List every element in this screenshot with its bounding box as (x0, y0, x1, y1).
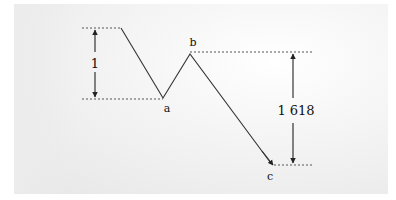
extension-measure: 1 618 (277, 54, 314, 163)
point-c-label: c (267, 170, 273, 183)
reference-lines (82, 28, 314, 165)
point-a-label: a (164, 102, 171, 115)
abc-fibonacci-diagram: 1 1 618 a b c (0, 0, 396, 200)
first-leg-measure: 1 (91, 30, 99, 97)
c-leg-arrow (262, 151, 273, 165)
extension-label: 1 618 (277, 103, 314, 118)
point-b-label: b (189, 36, 196, 49)
first-leg-label: 1 (91, 56, 99, 71)
